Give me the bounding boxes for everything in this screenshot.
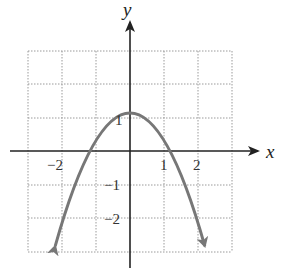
- x-tick-1: 1: [160, 157, 168, 173]
- y-tick-1: 1: [115, 112, 123, 128]
- x-axis-label: x: [265, 141, 275, 162]
- x-tick-neg2: −2: [47, 157, 63, 173]
- x-tick-2: 2: [193, 157, 201, 173]
- y-tick-neg1: −1: [104, 177, 120, 193]
- y-axis-label: y: [121, 0, 132, 20]
- y-tick-neg2: −2: [104, 211, 120, 227]
- parabola-graph: y x −2 1 2 1 −1 −2: [0, 0, 290, 274]
